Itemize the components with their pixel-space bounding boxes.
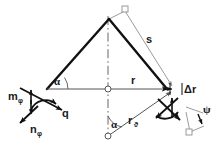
delta-r-group: Δr [166,83,197,95]
alpha-top-label: α [54,75,61,87]
center-marker [105,86,111,92]
psi-arrow [198,114,202,124]
n-phi-label-sub: φ [37,130,42,138]
right-vector-cluster [156,98,180,120]
bottom-right-square-marker [186,129,192,135]
r-label: r [131,74,136,86]
n-phi-label-base: n [30,123,37,135]
triangle-right-edge [109,19,167,89]
alpha-bottom-label: α [111,118,118,130]
origin-marker [105,133,111,139]
r-theta-label-base: r [128,114,133,126]
r-theta-label-sub: ϑ [134,121,139,128]
shell-element-diagram: α r s α r ϑ Δr m φ n φ q [0,0,223,150]
q-force-arrow [20,88,62,110]
psi-ref-line [186,107,203,113]
m-phi-label-base: m [8,90,18,102]
right-force-arrow-dr [158,99,180,120]
delta-r-label: Δr [184,83,197,95]
r-theta-group: α r ϑ [105,92,171,139]
arc-length-s-group [109,6,172,86]
psi-group: ψ [186,103,211,135]
s-label: s [146,33,152,45]
n-phi-arrow [20,106,38,123]
radius-r-group [47,86,168,92]
q-label: q [62,107,69,119]
left-vector-cluster: m φ n φ q [8,88,69,138]
m-phi-label-sub: φ [18,97,23,105]
alpha-top-arc [65,78,69,90]
top-square-marker [122,6,128,12]
psi-label: ψ [203,103,211,115]
alpha-top-group: α [54,75,68,89]
diagram-canvas: α r s α r ϑ Δr m φ n φ q [0,0,223,150]
